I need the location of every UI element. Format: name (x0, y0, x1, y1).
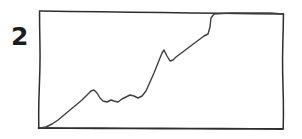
chart-frame (39, 11, 284, 129)
trend-line (40, 13, 283, 128)
frame-right-edge (283, 14, 284, 129)
hand-drawn-line-chart (0, 0, 302, 139)
frame-left-edge (39, 11, 40, 128)
frame-bottom-edge (39, 128, 283, 129)
figure-canvas: 2 (0, 0, 302, 139)
